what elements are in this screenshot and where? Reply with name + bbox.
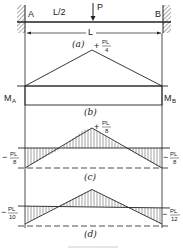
panel-b-peak-num: PL xyxy=(102,39,110,45)
panel-b-peak-den: 4 xyxy=(105,47,109,53)
panel-a-caption: (a) xyxy=(72,39,85,49)
panel-c-caption: (c) xyxy=(84,172,97,182)
svg-text:+: + xyxy=(94,41,99,51)
panel-b-moment-diagram: + PL 4 M A M B (b) xyxy=(4,39,176,117)
left-fixed-support xyxy=(17,5,25,33)
fixed-beam-moment-diagrams: A B L/2 P L (a) + PL 4 M A M B (b) xyxy=(0,0,183,251)
mb-label: M xyxy=(164,93,172,103)
panel-b-caption: (b) xyxy=(84,107,97,117)
svg-text:8: 8 xyxy=(13,159,17,165)
svg-text:8: 8 xyxy=(173,159,177,165)
panel-d-right-num: PL xyxy=(170,208,178,214)
svg-text:−: − xyxy=(1,207,6,217)
ma-label: M xyxy=(4,93,12,103)
load-label: P xyxy=(97,2,103,12)
right-fixed-support xyxy=(163,5,171,33)
svg-text:−: − xyxy=(163,152,168,162)
panel-c-left-num: PL xyxy=(10,151,18,157)
half-span-label: L/2 xyxy=(53,7,66,17)
panel-d-caption: (d) xyxy=(84,229,97,239)
panel-c-right-num: PL xyxy=(170,151,178,157)
figure-caption-faint xyxy=(68,246,118,248)
svg-text:−: − xyxy=(2,152,7,162)
span-label: L xyxy=(88,27,93,37)
panel-c-moment-diagram: + PL 8 − PL 8 − PL 8 (c) xyxy=(2,120,179,182)
panel-d-left-num: PL xyxy=(8,206,16,212)
svg-text:A: A xyxy=(12,98,16,104)
support-b-label: B xyxy=(155,9,161,19)
svg-text:B: B xyxy=(172,98,176,104)
svg-text:10: 10 xyxy=(9,214,16,220)
support-a-label: A xyxy=(28,9,34,19)
svg-text:−: − xyxy=(162,209,167,219)
panel-c-peak-den: 8 xyxy=(105,128,109,134)
svg-text:12: 12 xyxy=(171,216,178,222)
svg-text:+: + xyxy=(94,122,99,132)
panel-d-moment-diagram: − PL 10 − PL 12 (d) xyxy=(1,190,180,240)
panel-c-peak-num: PL xyxy=(102,120,110,126)
